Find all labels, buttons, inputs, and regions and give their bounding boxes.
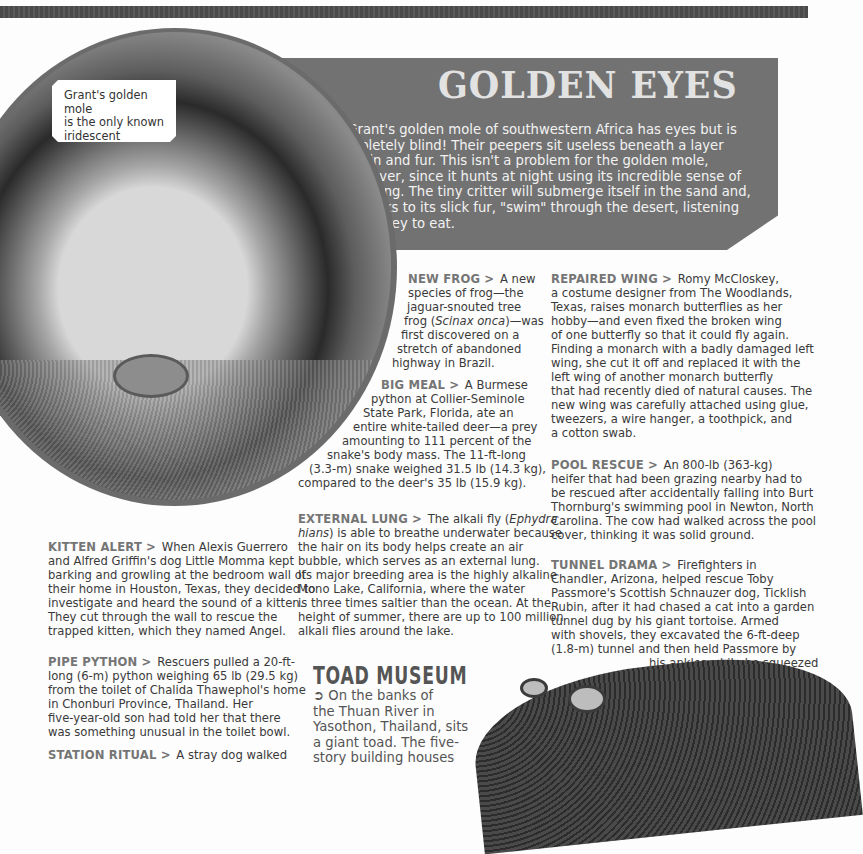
top-decorative-band: [0, 6, 808, 18]
item-pipe-python: PIPE PYTHON>Rescuers pulled a 20-ft- lon…: [48, 655, 308, 739]
item-station-ritual: STATION RITUAL>A stray dog walked: [48, 748, 308, 762]
item-heading: TUNNEL DRAMA: [551, 558, 658, 572]
feature-title: GOLDEN EYES: [438, 62, 738, 107]
item-big-meal: BIG MEAL>A Burmese python at Collier-Sem…: [0, 378, 590, 490]
feature-body: ➲ Grant's golden mole of southwestern Af…: [332, 122, 732, 231]
photo-callout: Grant's golden mole is the only known ir…: [52, 80, 176, 142]
item-heading: STATION RITUAL: [48, 748, 157, 762]
arrow-icon: >: [146, 540, 156, 554]
item-pool-rescue: POOL RESCUE>An 800-lb (363-kg) heifer th…: [551, 458, 808, 542]
item-heading: REPAIRED WING: [551, 272, 658, 286]
arrow-icon: >: [648, 458, 658, 472]
item-heading: POOL RESCUE: [551, 458, 644, 472]
item-kitten-alert: KITTEN ALERT>When Alexis Guerrero and Al…: [48, 540, 308, 638]
arrow-icon: >: [662, 272, 672, 286]
toad-eye: [520, 678, 548, 698]
arrow-icon: >: [449, 378, 459, 392]
giant-toad-photo: [467, 646, 863, 854]
arrow-icon: >: [662, 558, 672, 572]
arrow-icon: >: [142, 655, 152, 669]
item-new-frog: NEW FROG>A new species of frog—the jagua…: [0, 272, 590, 370]
item-heading: BIG MEAL: [381, 378, 445, 392]
arrow-icon: >: [412, 512, 422, 526]
toad-eye: [568, 685, 606, 713]
bullet-arrow-icon: ➲: [313, 688, 324, 703]
item-external-lung: EXTERNAL LUNG>The alkali fly (Ephydra hi…: [298, 512, 578, 638]
item-heading: EXTERNAL LUNG: [298, 512, 408, 526]
toad-museum-body: ➲ On the banks of the Thuan River in Yas…: [313, 688, 468, 766]
item-repaired-wing: REPAIRED WING>Romy McCloskey, a costume …: [551, 272, 808, 440]
toad-museum-title: TOAD MUSEUM: [313, 662, 467, 690]
item-heading: PIPE PYTHON: [48, 655, 138, 669]
arrow-icon: >: [161, 748, 171, 762]
arrow-icon: >: [484, 272, 494, 286]
item-heading: KITTEN ALERT: [48, 540, 142, 554]
item-heading: NEW FROG: [408, 272, 480, 286]
